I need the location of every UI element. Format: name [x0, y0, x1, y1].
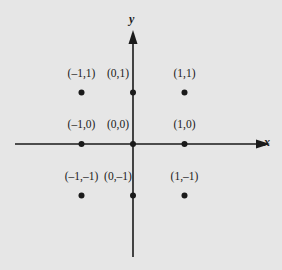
- data-point: [79, 193, 85, 199]
- data-point: [130, 90, 136, 96]
- axes-svg: [0, 0, 282, 270]
- point-label: (–1,–1): [65, 170, 99, 182]
- point-label: (0,0): [107, 118, 129, 130]
- point-label: (0,–1): [104, 170, 132, 182]
- data-point: [182, 141, 188, 147]
- point-label: (0,1): [107, 67, 129, 79]
- y-axis-label: y: [129, 12, 134, 27]
- point-label: (–1,0): [68, 118, 96, 130]
- point-label: (1,0): [173, 118, 195, 130]
- data-point: [130, 141, 136, 147]
- point-label: (1,1): [173, 67, 195, 79]
- y-axis-arrow-icon: [129, 30, 138, 44]
- data-point: [79, 141, 85, 147]
- coordinate-plane: y x (–1,1)(0,1)(1,1)(–1,0)(0,0)(1,0)(–1,…: [0, 0, 282, 270]
- data-point: [130, 193, 136, 199]
- point-label: (–1,1): [68, 67, 96, 79]
- x-axis-label: x: [264, 135, 270, 150]
- data-point: [79, 90, 85, 96]
- data-point: [182, 193, 188, 199]
- data-point: [182, 90, 188, 96]
- point-label: (1,–1): [171, 170, 199, 182]
